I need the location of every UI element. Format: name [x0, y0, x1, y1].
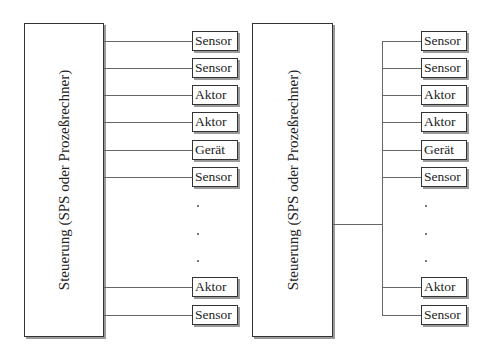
- device-sensor: Sensor: [192, 31, 238, 51]
- ellipsis-dot: [197, 260, 199, 262]
- device-aktor: Aktor: [192, 85, 238, 105]
- device-sensor: Sensor: [192, 305, 238, 325]
- device-sensor: Sensor: [421, 305, 467, 325]
- device-aktor: Aktor: [192, 277, 238, 297]
- controller-box-right: Steuerung (SPS oder Prozeßrechner): [252, 23, 333, 337]
- device-geraet: Gerät: [421, 140, 467, 160]
- device-geraet: Gerät: [192, 140, 238, 160]
- wire: [104, 122, 192, 123]
- wire: [104, 287, 192, 288]
- wire: [104, 41, 192, 42]
- bus-link: [333, 224, 382, 225]
- controller-box-left: Steuerung (SPS oder Prozeßrechner): [24, 23, 104, 337]
- bus-stub: [382, 41, 421, 42]
- device-aktor: Aktor: [421, 277, 467, 297]
- device-aktor: Aktor: [421, 112, 467, 132]
- controller-label: Steuerung (SPS oder Prozeßrechner): [56, 70, 73, 290]
- device-sensor: Sensor: [192, 167, 238, 187]
- bus-stub: [382, 177, 421, 178]
- wire: [104, 177, 192, 178]
- ellipsis-dot: [197, 205, 199, 207]
- bus-line: [382, 41, 383, 315]
- device-aktor: Aktor: [421, 85, 467, 105]
- bus-stub: [382, 315, 421, 316]
- bus-stub: [382, 287, 421, 288]
- ellipsis-dot: [425, 205, 427, 207]
- wire: [104, 95, 192, 96]
- device-sensor: Sensor: [421, 167, 467, 187]
- device-sensor: Sensor: [421, 58, 467, 78]
- bus-stub: [382, 68, 421, 69]
- wire: [104, 68, 192, 69]
- wire: [104, 150, 192, 151]
- bus-stub: [382, 150, 421, 151]
- device-sensor: Sensor: [421, 31, 467, 51]
- device-sensor: Sensor: [192, 58, 238, 78]
- controller-label: Steuerung (SPS oder Prozeßrechner): [284, 70, 301, 290]
- device-aktor: Aktor: [192, 112, 238, 132]
- ellipsis-dot: [197, 233, 199, 235]
- ellipsis-dot: [425, 233, 427, 235]
- bus-stub: [382, 95, 421, 96]
- bus-stub: [382, 122, 421, 123]
- ellipsis-dot: [425, 260, 427, 262]
- wire: [104, 315, 192, 316]
